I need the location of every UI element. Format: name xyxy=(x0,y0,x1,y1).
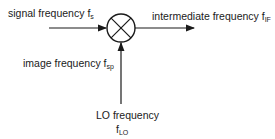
if-label-text: intermediate frequency f xyxy=(152,10,265,22)
if-label-sub: IF xyxy=(265,16,271,23)
lo-frequency-label: LO frequency xyxy=(96,110,159,121)
image-label-text: image frequency f xyxy=(23,57,106,69)
mixer-symbol xyxy=(107,14,135,42)
image-frequency-label: image frequency fsp xyxy=(23,58,114,70)
lo-label-text: LO frequency xyxy=(96,109,159,121)
signal-frequency-label: signal frequency fs xyxy=(8,8,94,20)
lo-frequency-symbol: fLO xyxy=(116,124,128,136)
signal-label-text: signal frequency f xyxy=(8,7,90,19)
lo-symbol-sub: LO xyxy=(119,129,128,136)
intermediate-frequency-label: intermediate frequency fIF xyxy=(152,11,271,23)
signal-label-sub: s xyxy=(90,13,94,20)
image-label-sub: sp xyxy=(106,63,113,70)
